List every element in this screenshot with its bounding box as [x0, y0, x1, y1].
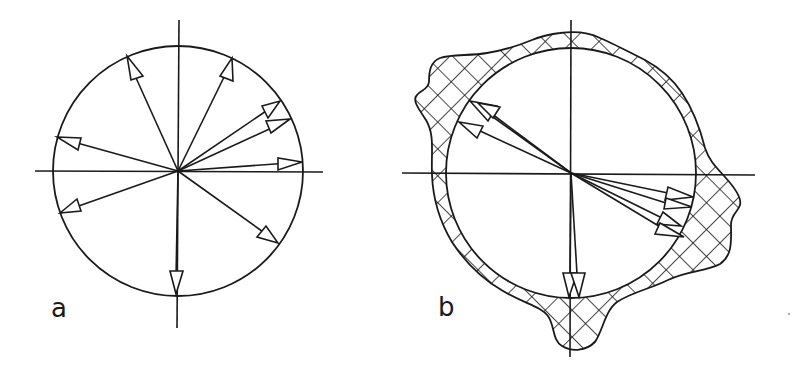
panel-a-label: a	[51, 295, 67, 321]
panel-a	[35, 20, 323, 328]
panel-b-label: b	[438, 294, 455, 320]
figure-canvas	[0, 0, 790, 370]
arrow-head	[170, 271, 183, 294]
arrow-head	[266, 119, 290, 133]
panel-b-hatched-envelope	[415, 32, 740, 350]
arrow-head	[57, 137, 81, 150]
arrow-head	[60, 199, 81, 213]
arrow-head	[278, 158, 302, 170]
panel-b	[402, 20, 755, 357]
panel-a-vectors	[57, 56, 302, 294]
arrow-head	[127, 56, 143, 80]
arrow-head	[257, 226, 278, 243]
arrow-head	[262, 101, 280, 118]
arrow-head	[220, 58, 233, 81]
